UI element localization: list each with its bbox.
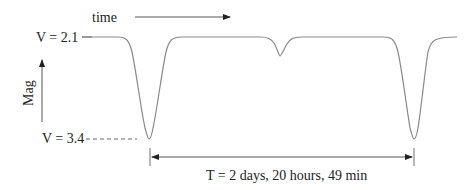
time-label: time bbox=[92, 10, 117, 25]
light-curve bbox=[82, 37, 457, 139]
max-magnitude-label: V = 2.1 bbox=[36, 30, 78, 45]
period-label: T = 2 days, 20 hours, 49 min bbox=[206, 168, 367, 183]
min-magnitude-label: V = 3.4 bbox=[42, 131, 84, 146]
magnitude-axis-label: Mag bbox=[21, 80, 36, 106]
light-curve-diagram: time V = 2.1 Mag V = 3.4 T = 2 days, 20 … bbox=[0, 0, 476, 190]
